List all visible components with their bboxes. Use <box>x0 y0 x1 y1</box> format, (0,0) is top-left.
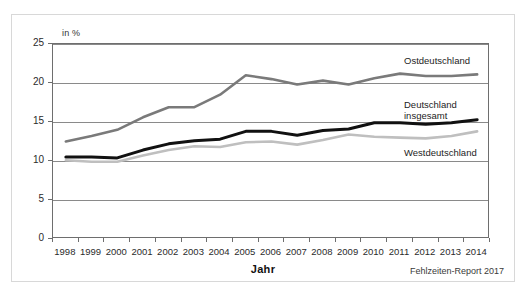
x-axis-tick-mark <box>463 238 464 242</box>
x-axis-tick-label: 2004 <box>206 246 232 257</box>
x-axis-tick-label: 2005 <box>232 246 258 257</box>
x-axis-tick-mark <box>206 238 207 242</box>
x-axis-tick-mark <box>232 238 233 242</box>
x-axis-tick-label: 2012 <box>412 246 438 257</box>
series-label-ostdeutschland: Ostdeutschland <box>404 56 470 67</box>
x-axis-tick-label: 2000 <box>103 246 129 257</box>
x-axis-tick-label: 2013 <box>438 246 464 257</box>
x-axis-tick-label: 2003 <box>181 246 207 257</box>
x-axis-tick-mark <box>129 238 130 242</box>
y-axis-tick-label: 0 <box>18 233 44 243</box>
series-label-westdeutschland: Westdeutschland <box>404 148 477 159</box>
series-lines <box>53 44 488 237</box>
x-axis-tick-mark <box>412 238 413 242</box>
x-axis-tick-label: 2008 <box>309 246 335 257</box>
x-axis-tick-label: 2002 <box>155 246 181 257</box>
series-label-line2: insgesamt <box>404 110 447 121</box>
x-axis-tick-label: 1999 <box>78 246 104 257</box>
y-axis-unit-label: in % <box>62 28 80 38</box>
x-axis-tick-mark <box>489 238 490 242</box>
x-axis-tick-mark <box>258 238 259 242</box>
y-axis-tick-label: 25 <box>18 38 44 48</box>
x-axis-tick-mark <box>438 238 439 242</box>
y-axis-tick-label: 10 <box>18 155 44 165</box>
x-axis-tick-label: 2011 <box>386 246 412 257</box>
plot-inner <box>53 44 488 237</box>
series-label-deutschland-insgesamt: Deutschland insgesamt <box>404 100 457 121</box>
x-axis-tick-label: 1998 <box>52 246 78 257</box>
x-axis-tick-mark <box>181 238 182 242</box>
plot-area <box>52 43 489 238</box>
x-axis-tick-mark <box>386 238 387 242</box>
x-axis-tick-label: 2006 <box>258 246 284 257</box>
x-axis-tick-mark <box>335 238 336 242</box>
y-axis-tick-label: 20 <box>18 77 44 87</box>
x-axis-tick-mark <box>360 238 361 242</box>
series-label-line1: Deutschland <box>404 99 457 110</box>
y-axis-tick-label: 15 <box>18 116 44 126</box>
x-axis-tick-label: 2007 <box>283 246 309 257</box>
x-axis-tick-mark <box>155 238 156 242</box>
x-axis-tick-mark <box>103 238 104 242</box>
x-axis-tick-label: 2010 <box>360 246 386 257</box>
source-note: Fehlzeiten-Report 2017 <box>410 266 504 276</box>
x-axis-tick-mark <box>52 238 53 242</box>
chart-figure: in % 0510152025 199819992000200120022003… <box>0 0 526 300</box>
y-axis-tick-label: 5 <box>18 194 44 204</box>
x-axis-tick-mark <box>309 238 310 242</box>
x-axis-tick-label: 2001 <box>129 246 155 257</box>
x-axis-tick-label: 2009 <box>335 246 361 257</box>
x-axis-tick-mark <box>283 238 284 242</box>
x-axis-tick-label: 2014 <box>463 246 489 257</box>
x-axis-tick-mark <box>78 238 79 242</box>
